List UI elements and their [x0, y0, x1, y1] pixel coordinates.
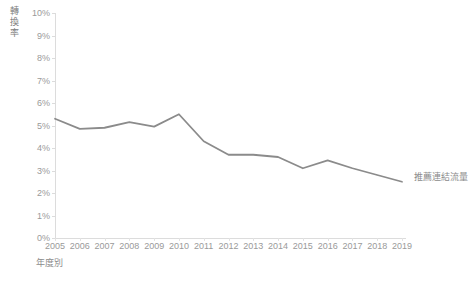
series-line-referral-traffic: [55, 114, 402, 182]
series-plot: [0, 0, 472, 281]
conversion-rate-line-chart: 轉 換 率 0%1%2%3%4%5%6%7%8%9%10% 2005200620…: [0, 0, 472, 281]
series-label-referral-traffic: 推薦連結流量: [414, 170, 468, 183]
x-axis-title: 年度別: [36, 256, 63, 269]
